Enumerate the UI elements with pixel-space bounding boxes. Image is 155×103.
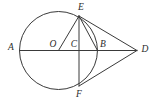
label-O: O: [50, 39, 57, 49]
label-E: E: [77, 2, 84, 12]
label-B: B: [100, 39, 106, 49]
label-D: D: [141, 44, 149, 54]
geometry-canvas: A O C B D E F: [0, 0, 155, 103]
label-F: F: [75, 89, 82, 99]
label-C: C: [71, 39, 78, 49]
label-A: A: [7, 42, 14, 52]
segment-FD: [79, 51, 137, 87]
geometry-figure: A O C B D E F: [0, 0, 155, 103]
